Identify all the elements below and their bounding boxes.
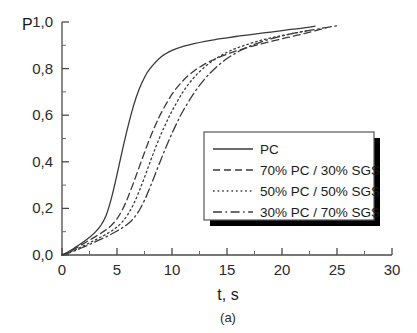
x-tick-label: 20 xyxy=(274,261,291,278)
y-tick-label: 0,6 xyxy=(32,106,53,123)
figure-container: 051015202530 0,00,20,40,60,81,0 P t, s (… xyxy=(0,0,417,333)
x-tick-label: 30 xyxy=(384,261,401,278)
chart-legend: PC70% PC / 30% SGS50% PC / 50% SGS30% PC… xyxy=(204,132,380,226)
y-tick-label: 0,0 xyxy=(32,246,53,263)
y-tick-label: 0,4 xyxy=(32,153,53,170)
x-tick-label: 10 xyxy=(164,261,181,278)
x-tick-label: 25 xyxy=(329,261,346,278)
y-axis-tick-labels: 0,00,20,40,60,81,0 xyxy=(32,13,53,263)
figure-caption: (a) xyxy=(220,310,236,325)
x-tick-label: 5 xyxy=(113,261,121,278)
y-tick-label: 1,0 xyxy=(32,13,53,30)
chart-canvas: 051015202530 0,00,20,40,60,81,0 P t, s (… xyxy=(0,0,417,333)
x-tick-label: 15 xyxy=(219,261,236,278)
y-axis-ticks xyxy=(62,22,69,255)
legend-label-0: PC xyxy=(260,142,279,157)
legend-label-1: 70% PC / 30% SGS xyxy=(260,163,380,178)
y-axis-title: P xyxy=(22,16,33,33)
x-axis-tick-labels: 051015202530 xyxy=(58,261,401,278)
x-axis-ticks xyxy=(62,248,392,255)
legend-label-2: 50% PC / 50% SGS xyxy=(260,184,380,199)
legend-label-3: 30% PC / 70% SGS xyxy=(260,205,380,220)
x-tick-label: 0 xyxy=(58,261,66,278)
x-axis-title: t, s xyxy=(217,286,238,303)
y-tick-label: 0,2 xyxy=(32,199,53,216)
y-tick-label: 0,8 xyxy=(32,60,53,77)
